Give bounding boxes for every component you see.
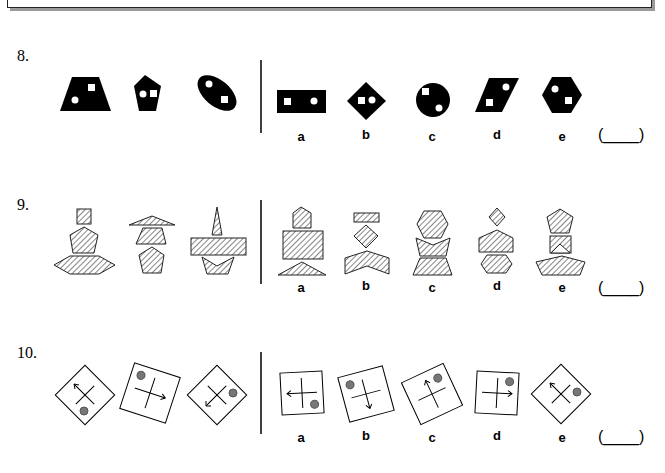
q9-option-d (479, 208, 513, 273)
q9-option-a (278, 207, 326, 275)
q8-option-b-diamond (347, 82, 386, 120)
q9-option-e (536, 209, 585, 275)
q8-label-b: b (356, 127, 376, 142)
q8-figure-1-trapezoid (60, 77, 111, 111)
q8-option-a-rectangle (277, 90, 326, 113)
q8-option-e-hexagon (542, 77, 582, 113)
q10-option-b (338, 366, 394, 422)
q8-option-c-circle (416, 83, 450, 117)
q8-label-c: c (422, 129, 442, 144)
q9-figure-2 (129, 216, 175, 273)
q10-label-c: c (422, 430, 442, 445)
q9-label-e: e (552, 280, 572, 295)
q8-label-a: a (291, 129, 311, 144)
figures-canvas (0, 0, 665, 473)
q9-figure-1 (54, 209, 115, 274)
q10-label-a: a (291, 430, 311, 445)
q10-option-c (401, 363, 462, 424)
q10-answer-blank[interactable]: (____) (598, 428, 644, 446)
q10-label-e: e (552, 430, 572, 445)
q8-figure-3-ellipse (191, 68, 243, 117)
q8-figure-2-pentagon (134, 75, 161, 111)
q9-label-d: d (487, 278, 507, 293)
q9-figure-3 (191, 207, 246, 274)
q8-label-d: d (487, 127, 507, 142)
q10-option-a (280, 371, 324, 415)
q8-option-d-parallelogram (475, 78, 519, 112)
q8-answer-blank[interactable]: (____) (598, 126, 644, 144)
q10-option-d (475, 371, 519, 415)
q9-answer-blank[interactable]: (____) (598, 279, 644, 297)
q9-option-c (413, 211, 452, 275)
q10-figure-2 (120, 363, 180, 423)
q9-label-c: c (422, 280, 442, 295)
q9-label-a: a (291, 280, 311, 295)
q8-label-e: e (552, 129, 572, 144)
q9-option-b (345, 213, 389, 274)
q9-label-b: b (356, 278, 376, 293)
q10-label-d: d (487, 428, 507, 443)
q10-label-b: b (356, 428, 376, 443)
